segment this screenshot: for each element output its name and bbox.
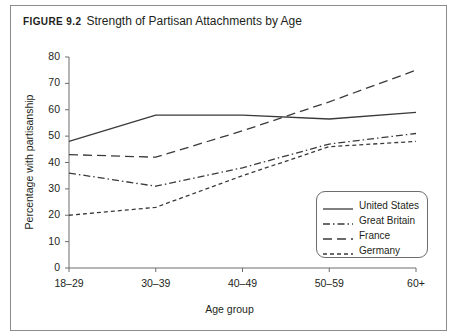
x-tick-1: 30–39 <box>126 277 186 289</box>
x-tick-3: 50–59 <box>299 277 359 289</box>
chart-legend: United StatesGreat BritainFranceGermany <box>316 191 428 258</box>
chart-plot-area: 01020304050607080 18–2930–3940–4950–5960… <box>11 6 448 332</box>
y-tick-30: 30 <box>34 182 60 194</box>
y-tick-0: 0 <box>34 261 60 273</box>
series-line-2 <box>69 70 416 157</box>
y-tick-40: 40 <box>34 156 60 168</box>
legend-item-label: Great Britain <box>359 215 415 226</box>
legend-item-3[interactable]: Germany <box>323 242 400 258</box>
legend-item-label: United States <box>359 200 419 211</box>
legend-item-1[interactable]: Great Britain <box>323 212 415 228</box>
series-line-0 <box>69 112 416 141</box>
legend-line-swatch-icon <box>323 200 353 210</box>
y-tick-10: 10 <box>34 235 60 247</box>
series-line-1 <box>69 133 416 186</box>
legend-item-label: France <box>359 230 390 241</box>
legend-item-label: Germany <box>359 245 400 256</box>
x-tick-0: 18–29 <box>39 277 99 289</box>
x-tick-2: 40–49 <box>213 277 273 289</box>
legend-line-swatch-icon <box>323 230 353 240</box>
y-tick-70: 70 <box>34 76 60 88</box>
y-axis-title: Percentage with partisanship <box>23 82 35 242</box>
y-tick-80: 80 <box>34 50 60 62</box>
y-tick-20: 20 <box>34 208 60 220</box>
y-tick-50: 50 <box>34 129 60 141</box>
x-tick-4: 60+ <box>386 277 446 289</box>
legend-item-2[interactable]: France <box>323 227 390 243</box>
figure-frame: Figure 9.2Strength of Partisan Attachmen… <box>10 5 447 331</box>
legend-item-0[interactable]: United States <box>323 197 419 213</box>
legend-line-swatch-icon <box>323 215 353 225</box>
legend-line-swatch-icon <box>323 245 353 255</box>
x-axis-title: Age group <box>11 303 448 315</box>
y-tick-60: 60 <box>34 103 60 115</box>
